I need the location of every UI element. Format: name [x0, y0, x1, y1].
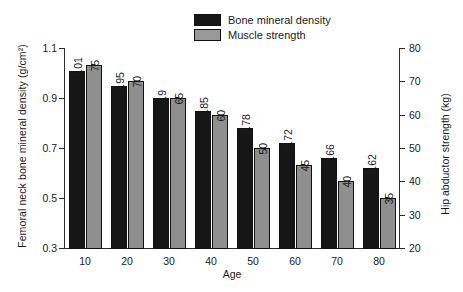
plot-area: 1.10.90.70.50.3807060504030201.0175100.9…: [64, 48, 400, 248]
x-axis-tick-label: 60: [275, 255, 315, 267]
y-axis-right-tick: [400, 181, 405, 182]
chart-figure: Femoral neck bone mineral density (g/cm²…: [0, 0, 463, 292]
y-axis-left-tick: [59, 148, 64, 149]
bar-muscle-strength: [380, 198, 396, 249]
y-axis-right-tick-label: 80: [409, 43, 449, 54]
y-axis-left-line: [64, 48, 65, 249]
bar-value-label: 0.9: [156, 90, 167, 105]
y-axis-left-tick-label: 0.3: [17, 243, 57, 254]
x-axis-tick-label: 30: [149, 255, 189, 267]
bar-bone-mineral-density: [111, 86, 127, 250]
bar-muscle-strength: [170, 98, 186, 249]
y-axis-right-tick: [400, 215, 405, 216]
y-axis-left-tick-label: 0.7: [17, 143, 57, 154]
legend-item-bone-mineral-density: Bone mineral density: [194, 14, 331, 26]
y-axis-right-tick-label: 50: [409, 143, 449, 154]
x-axis-tick-label: 80: [359, 255, 399, 267]
x-axis-tick-label: 10: [65, 255, 105, 267]
y-axis-right-tick: [400, 81, 405, 82]
y-axis-right-tick-label: 40: [409, 176, 449, 187]
bar-value-label: 65: [173, 93, 184, 105]
bar-value-label: 45: [299, 159, 310, 171]
bar-value-label: 0.72: [282, 129, 293, 149]
y-axis-right-tick: [400, 248, 405, 249]
bar-muscle-strength: [128, 81, 144, 249]
bar-value-label: 0.66: [324, 144, 335, 164]
y-axis-left-tick: [59, 248, 64, 249]
bar-value-label: 1.01: [72, 57, 83, 77]
bar-value-label: 75: [89, 59, 100, 71]
bar-value-label: 50: [257, 143, 268, 155]
y-axis-right-tick-label: 60: [409, 110, 449, 121]
x-axis-tick-label: 20: [107, 255, 147, 267]
y-axis-left-tick: [59, 48, 64, 49]
x-axis-tick-label: 70: [317, 255, 357, 267]
legend-label: Muscle strength: [228, 29, 306, 41]
bar-value-label: 0.85: [198, 97, 209, 117]
legend-item-muscle-strength: Muscle strength: [194, 29, 331, 41]
bar-bone-mineral-density: [237, 128, 253, 249]
y-axis-right-tick-label: 20: [409, 243, 449, 254]
x-axis-title: Age: [64, 268, 400, 280]
y-axis-left-tick: [59, 98, 64, 99]
chart-legend: Bone mineral density Muscle strength: [194, 14, 331, 41]
x-axis-tick-label: 40: [191, 255, 231, 267]
bar-bone-mineral-density: [153, 98, 169, 249]
y-axis-right-tick: [400, 115, 405, 116]
y-axis-right-tick-label: 30: [409, 210, 449, 221]
y-axis-left-tick-label: 0.5: [17, 193, 57, 204]
y-axis-right-tick: [400, 48, 405, 49]
bar-muscle-strength: [254, 148, 270, 249]
bar-value-label: 35: [383, 193, 394, 205]
bar-muscle-strength: [86, 65, 102, 249]
bar-bone-mineral-density: [363, 168, 379, 249]
y-axis-left-tick-label: 1.1: [17, 43, 57, 54]
bar-bone-mineral-density: [69, 71, 85, 250]
x-axis-tick-label: 50: [233, 255, 273, 267]
bar-muscle-strength: [296, 165, 312, 249]
bar-value-label: 0.78: [240, 114, 251, 134]
legend-swatch-icon-muscle-strength: [194, 29, 221, 41]
y-axis-right-tick: [400, 148, 405, 149]
bar-value-label: 0.95: [114, 72, 125, 92]
y-axis-left-tick: [59, 198, 64, 199]
bar-muscle-strength: [338, 181, 354, 249]
bar-value-label: 40: [341, 176, 352, 188]
bar-bone-mineral-density: [195, 111, 211, 250]
y-axis-right-tick-label: 70: [409, 76, 449, 87]
legend-swatch-icon-bone-mineral-density: [194, 14, 221, 26]
bar-muscle-strength: [212, 115, 228, 249]
y-axis-left-tick-label: 0.9: [17, 93, 57, 104]
bar-bone-mineral-density: [279, 143, 295, 249]
bar-bone-mineral-density: [321, 158, 337, 249]
bar-value-label: 70: [131, 76, 142, 88]
bar-value-label: 0.62: [366, 154, 377, 174]
bar-value-label: 60: [215, 109, 226, 121]
legend-label: Bone mineral density: [228, 14, 331, 26]
